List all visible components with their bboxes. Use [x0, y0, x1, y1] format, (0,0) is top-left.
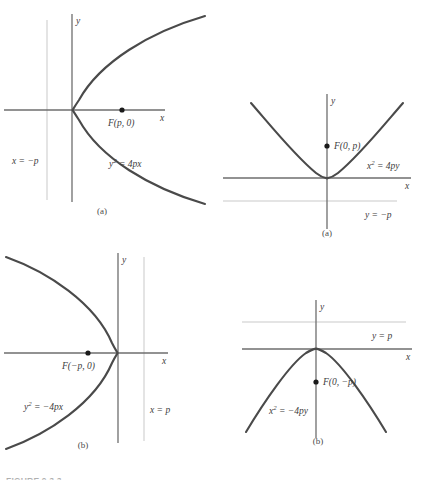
svg-text:x2 = −4py: x2 = −4py — [268, 404, 309, 416]
equation-label: y2 = −4px — [23, 400, 64, 412]
parabola-left-opening-plot: x y F(−p, 0) x = p y2 = −4px — [0, 245, 200, 450]
equation-label: x2 = −4py — [268, 404, 309, 416]
x-axis-label: x — [161, 356, 167, 366]
y-axis-label: y — [75, 16, 81, 26]
equation-rest: = 4px — [117, 159, 143, 169]
x-axis-label: x — [405, 352, 411, 362]
directrix-label: x = p — [149, 405, 170, 415]
equation-rest: = −4px — [32, 402, 64, 412]
focus-label: F(p, 0) — [107, 118, 134, 129]
y-axis-label: y — [330, 96, 336, 106]
focus-point — [85, 350, 90, 355]
parabola-up-opening-plot: x y F(0, p) y = −p x2 = 4py — [215, 88, 422, 236]
focus-point — [119, 107, 124, 112]
panel-caption-a-right: (a) — [307, 228, 347, 238]
focus-label: F(0, p) — [333, 141, 360, 152]
svg-text:x2 = 4py: x2 = 4py — [366, 159, 400, 171]
panel-parabola-up-opening: x y F(0, p) y = −p x2 = 4py (a) — [215, 88, 422, 236]
panel-caption-b-right: (b) — [298, 436, 338, 446]
equation-label: x2 = 4py — [366, 159, 400, 171]
parabola-right-opening-plot: x y F(p, 0) x = −p y2 = 4px — [0, 0, 210, 215]
panel-parabola-right-opening: x y F(p, 0) x = −p y2 = 4px (a) — [0, 0, 210, 215]
equation-rest: = 4py — [375, 161, 401, 171]
panel-caption-a-left: (a) — [82, 206, 122, 216]
x-axis-label: x — [159, 113, 165, 123]
equation-label: y2 = 4px — [108, 157, 142, 169]
y-axis-label: y — [319, 302, 325, 312]
focus-label: F(−p, 0) — [61, 361, 95, 372]
focus-label: F(0, −p) — [322, 377, 356, 388]
y-axis-label: y — [121, 255, 127, 265]
focus-point — [313, 379, 318, 384]
figure-sheet: x y F(p, 0) x = −p y2 = 4px (a) x y F(0, — [0, 0, 422, 483]
figure-caption: FIGURE 9.3.3 — [6, 476, 62, 483]
directrix-label: y = −p — [364, 210, 392, 220]
equation-rest: = −4py — [277, 406, 309, 416]
panel-parabola-left-opening: x y F(−p, 0) x = p y2 = −4px (b) — [0, 245, 200, 450]
svg-text:y2 = −4px: y2 = −4px — [23, 400, 64, 412]
svg-text:y2 = 4px: y2 = 4px — [108, 157, 142, 169]
x-axis-label: x — [404, 181, 410, 191]
parabola-down-opening-plot: x y F(0, −p) y = p x2 = −4py — [236, 292, 422, 442]
panel-caption-b-left: (b) — [63, 440, 103, 450]
directrix-label: y = p — [371, 331, 392, 341]
panel-parabola-down-opening: x y F(0, −p) y = p x2 = −4py (b) — [236, 292, 422, 442]
directrix-label: x = −p — [11, 156, 39, 166]
focus-point — [324, 143, 329, 148]
